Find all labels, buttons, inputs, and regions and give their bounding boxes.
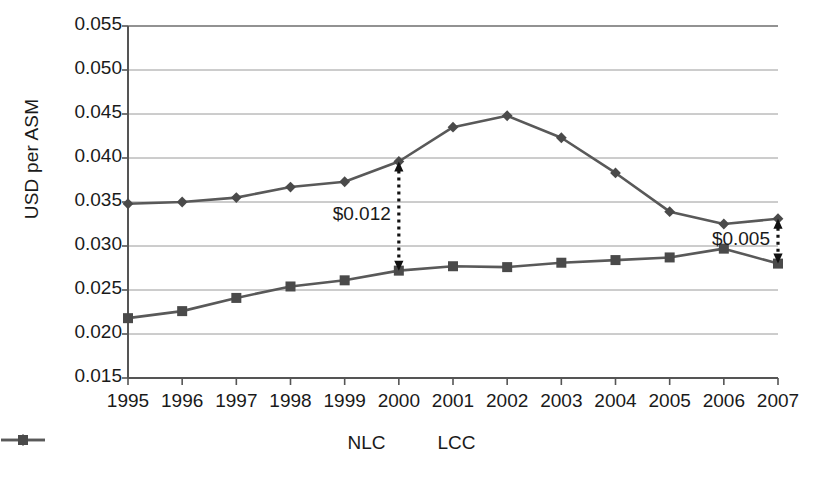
legend-label-nlc: NLC	[347, 432, 385, 454]
annotation-arrow-1	[773, 219, 782, 264]
data-point-nlc	[177, 197, 188, 208]
chart-container: USD per ASM 0.0550.0500.0450.0400.0350.0…	[0, 0, 823, 480]
chart-legend: NLC LCC	[0, 432, 823, 454]
annotation-label: $0.012	[329, 203, 391, 225]
legend-marker-square-icon	[0, 432, 46, 448]
data-point-lcc	[665, 252, 675, 262]
data-point-nlc	[285, 182, 296, 193]
data-point-lcc	[556, 258, 566, 268]
data-point-lcc	[611, 255, 621, 265]
data-point-nlc	[502, 110, 513, 121]
legend-item-nlc[interactable]: NLC	[347, 432, 385, 454]
data-point-nlc	[339, 176, 350, 187]
annotation-arrow-0	[394, 162, 403, 271]
annotation-label: $0.005	[708, 228, 770, 250]
data-point-lcc	[340, 275, 350, 285]
plot-area	[0, 0, 823, 480]
data-point-lcc	[123, 313, 133, 323]
data-point-nlc	[123, 198, 134, 209]
data-point-lcc	[231, 293, 241, 303]
legend-label-lcc: LCC	[438, 432, 476, 454]
data-point-nlc	[231, 192, 242, 203]
data-point-lcc	[177, 306, 187, 316]
data-point-lcc	[448, 261, 458, 271]
legend-item-lcc[interactable]: LCC	[438, 432, 476, 454]
series-line-lcc	[128, 249, 778, 319]
data-point-lcc	[502, 262, 512, 272]
data-point-lcc	[286, 281, 296, 291]
